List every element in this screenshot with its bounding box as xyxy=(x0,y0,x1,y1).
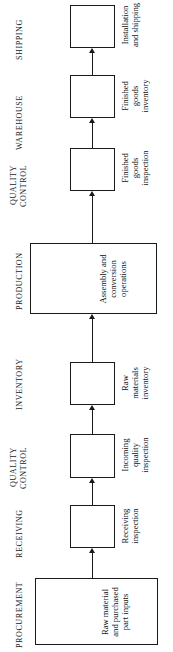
stage-label-procurement: PROCUREMENT xyxy=(15,582,24,648)
stage-label-shipping: SHIPPING xyxy=(15,19,24,60)
connector-arrowhead-fgins-to-fgi xyxy=(89,118,95,123)
stage-label-warehouse: WAREHOUSE xyxy=(15,95,24,150)
stage-label-quality-control-upper-line1: QUALITY xyxy=(9,165,18,205)
stage-label-quality-control-upper-line2: CONTROL xyxy=(19,165,28,207)
node-caption-finished-goods-inventory: Finished goods inventory xyxy=(120,74,151,118)
node-receiving-inspection[interactable] xyxy=(70,505,115,548)
connector-arrowhead-fgi-to-shipping xyxy=(89,48,95,53)
connector-line-fgi-to-shipping xyxy=(92,53,93,75)
connector-line-production-to-fgins xyxy=(92,196,93,243)
stage-label-quality-control-lower-line1: QUALITY xyxy=(9,447,18,487)
connector-line-iqi-to-rmi xyxy=(92,410,93,434)
connector-line-rmi-to-production xyxy=(92,319,93,362)
node-caption-assembly-and-conversion-operations: Assembly and conversion operations xyxy=(98,250,129,308)
node-caption-receiving-inspection: Receiving inspection xyxy=(120,504,140,548)
stage-label-receiving: RECEIVING xyxy=(15,509,24,558)
node-assembly-and-conversion-operations[interactable] xyxy=(30,243,157,314)
node-raw-material-and-purchased-part-inputs[interactable] xyxy=(35,578,158,645)
connector-arrowhead-ri-to-iqi xyxy=(89,478,95,483)
connector-line-ri-to-iqi xyxy=(92,483,93,505)
node-caption-raw-material-and-purchased-part-inputs: Raw material and purchased part inputs xyxy=(100,584,131,640)
connector-arrowhead-production-to-fgins xyxy=(89,191,95,196)
node-finished-goods-inventory[interactable] xyxy=(70,75,115,118)
stage-label-quality-control-lower-line2: CONTROL xyxy=(19,447,28,489)
node-incoming-quality-inspection[interactable] xyxy=(70,434,115,478)
connector-arrowhead-procurement-to-ri xyxy=(89,548,95,553)
node-caption-incoming-quality-inspection: Incoming quality inspection xyxy=(120,432,151,478)
node-finished-goods-inspection[interactable] xyxy=(70,148,115,191)
connector-line-procurement-to-ri xyxy=(92,553,93,578)
node-raw-materials-inventory[interactable] xyxy=(70,362,115,405)
node-caption-finished-goods-inspection: Finished goods inspection xyxy=(120,145,151,191)
process-flow-diagram: SHIPPING WAREHOUSE QUALITY CONTROL PRODU… xyxy=(0,0,173,652)
stage-label-production: PRODUCTION xyxy=(15,252,24,310)
connector-line-fgins-to-fgi xyxy=(92,123,93,148)
node-caption-installation-and-shipping: Installation and shipping xyxy=(120,2,140,48)
stage-label-inventory: INVENTORY xyxy=(15,358,24,410)
node-caption-raw-materials-inventory: Raw materials inventory xyxy=(120,361,151,405)
connector-arrowhead-iqi-to-rmi xyxy=(89,405,95,410)
connector-arrowhead-rmi-to-production xyxy=(89,314,95,319)
node-installation-and-shipping[interactable] xyxy=(70,5,115,48)
